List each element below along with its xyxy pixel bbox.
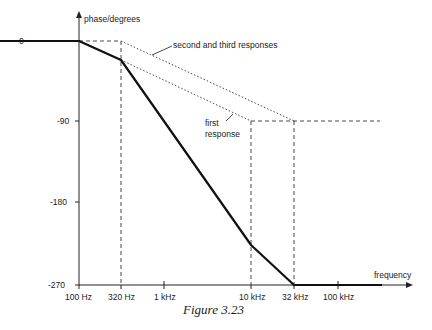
- second-third-slope-dotted: [121, 41, 294, 121]
- leader-first: [226, 114, 233, 121]
- annotation-second-third: second and third responses: [173, 40, 277, 50]
- y-axis-label: phase/degrees: [84, 14, 140, 24]
- x-tick-320hz: 320 Hz: [108, 292, 135, 302]
- leader-second-third: [152, 46, 172, 55]
- y-ticks: [75, 121, 79, 285]
- figure-caption: Figure 3.23: [182, 302, 244, 317]
- x-axis-label: frequency: [374, 270, 412, 280]
- x-tick-1khz: 1 kHz: [154, 292, 176, 302]
- y-tick-minus-270: -270: [48, 280, 65, 290]
- annotation-first-line1: first: [205, 118, 219, 128]
- phase-plot: phase/degrees frequency 0 -90 -180 -270 …: [0, 0, 432, 330]
- y-tick-minus-90: -90: [57, 116, 70, 126]
- x-tick-32khz: 32 kHz: [282, 292, 308, 302]
- y-axis-arrow-icon: [76, 11, 82, 18]
- x-tick-100hz: 100 Hz: [65, 292, 92, 302]
- vertical-guides: [121, 41, 294, 285]
- x-axis-arrow-icon: [406, 282, 413, 288]
- first-response-slope-dotted: [121, 60, 251, 121]
- x-tick-10khz: 10 kHz: [239, 292, 265, 302]
- y-tick-0: 0: [19, 36, 24, 46]
- y-tick-minus-180: -180: [50, 197, 67, 207]
- annotation-first-line2: response: [205, 129, 240, 139]
- overall-response-curve: [0, 41, 382, 285]
- x-tick-100khz: 100 kHz: [323, 292, 354, 302]
